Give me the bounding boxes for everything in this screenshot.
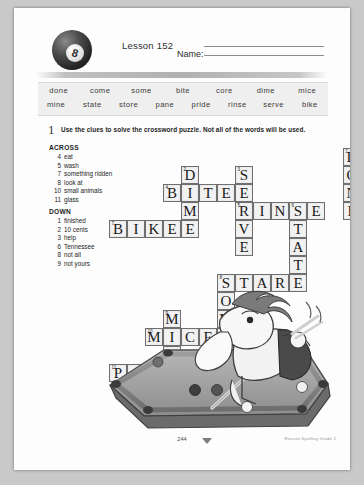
down-clue-list: 1finished210 cents3help6Tennessee8not al… (49, 217, 94, 269)
lesson-title: Lesson 152 (122, 40, 173, 51)
clue-number: 8 (49, 179, 61, 188)
crossword-cell[interactable]: T (289, 256, 307, 274)
crossword-cell-letter: A (290, 239, 306, 255)
crossword-cell-letter: V (236, 221, 252, 237)
clue-text: look at (64, 179, 83, 186)
clue-text: not all (64, 251, 81, 258)
name-line-bottom[interactable] (204, 55, 324, 56)
crossword-cell-letter: N (344, 185, 350, 201)
clue-number: 6 (49, 243, 61, 252)
clue-number: 10 (49, 187, 61, 196)
crossword-cell[interactable]: E (235, 184, 253, 202)
crossword-cell[interactable]: 2D (181, 166, 199, 184)
clue-text: something ridden (64, 170, 112, 177)
instruction-text: Use the clues to solve the crossword puz… (61, 126, 305, 133)
word-bank-word: state (74, 100, 110, 109)
crossword-cell[interactable]: O (343, 166, 350, 184)
crossword-cell[interactable]: E (163, 220, 181, 238)
clue-number: 7 (49, 170, 61, 179)
crossword-cell-letter: B (164, 185, 180, 201)
crossword-cell-letter: O (344, 167, 350, 183)
crossword-cell-letter: B (110, 221, 126, 237)
crossword-cell[interactable]: T (199, 184, 217, 202)
across-clue: 5wash (49, 162, 112, 171)
clue-text: eat (64, 153, 73, 160)
crossword-cell[interactable]: V (235, 220, 253, 238)
clue-number: 3 (49, 234, 61, 243)
header-divider (36, 72, 328, 78)
clue-text: help (64, 234, 76, 241)
crossword-cell[interactable]: N (343, 184, 350, 202)
crossword-cell[interactable]: 5R (235, 202, 253, 220)
clue-number: 1 (49, 217, 61, 226)
crossword-cell-letter: E (308, 203, 324, 219)
crossword-cell-letter: M (182, 203, 198, 219)
crossword-cell[interactable]: E (235, 238, 253, 256)
crossword-cell-letter: I (254, 203, 270, 219)
crossword-cell-letter: S (236, 167, 252, 183)
crossword-cell-letter: K (146, 221, 162, 237)
crossword-cell[interactable]: 1D (343, 148, 350, 166)
word-bank-word: serve (256, 100, 292, 109)
word-bank-word: some (121, 86, 162, 95)
word-bank-word: bike (292, 100, 328, 109)
crossword-cell-letter: E (236, 239, 252, 255)
crossword-cell[interactable]: 4B (163, 184, 181, 202)
footer-credit: Reason Spelling Grade 2 (285, 436, 336, 441)
name-line-top[interactable] (204, 46, 324, 47)
crossword-cell[interactable]: M (181, 202, 199, 220)
cartoon-svg (92, 280, 342, 440)
word-bank-word: done (38, 86, 79, 95)
crossword-cell[interactable]: T (289, 220, 307, 238)
crossword-cell-letter: T (290, 257, 306, 273)
crossword-cell-letter: E (182, 221, 198, 237)
name-label: Name: (177, 49, 204, 59)
crossword-cell[interactable]: A (289, 238, 307, 256)
across-clue: 8look at (49, 179, 112, 188)
instruction-number: 1 (48, 122, 55, 138)
page-inner: 8 Lesson 152 Name: donecomesomebitecored… (14, 8, 350, 470)
word-bank-word: store (111, 100, 147, 109)
crossword-cell[interactable]: N (271, 202, 289, 220)
word-bank-word: pane (147, 100, 183, 109)
crossword-cell[interactable]: E (343, 202, 350, 220)
across-clue-list: 4eat5wash7something ridden8look at10smal… (49, 153, 112, 205)
crossword-cell[interactable]: E (181, 220, 199, 238)
crossword-cell[interactable]: I (127, 220, 145, 238)
clue-text: not yours (64, 260, 90, 267)
pool-table-illustration (92, 280, 342, 440)
down-clue: 8not all (49, 251, 94, 260)
word-bank-word: come (79, 86, 120, 95)
crossword-cell[interactable]: 7B (109, 220, 127, 238)
crossword-cell[interactable]: 6S (289, 202, 307, 220)
down-clue: 1finished (49, 217, 94, 226)
down-clue: 210 cents (49, 226, 94, 235)
clue-text: wash (64, 162, 79, 169)
word-bank-row-2: minestatestorepanepriderinseservebike (38, 100, 328, 109)
clue-number: 8 (49, 251, 61, 260)
crossword-cell[interactable]: E (217, 184, 235, 202)
clue-text: finished (64, 217, 86, 224)
word-bank-word: mice (287, 86, 328, 95)
word-bank-word: dime (245, 86, 286, 95)
crossword-cell[interactable]: K (145, 220, 163, 238)
crossword-cell-letter: S (290, 203, 306, 219)
word-bank: donecomesomebitecoredimemice minestatest… (38, 82, 328, 116)
crossword-cell-letter: I (128, 221, 144, 237)
crossword-cell-letter: D (182, 167, 198, 183)
crossword-cell-letter: R (236, 203, 252, 219)
down-clue: 3help (49, 234, 94, 243)
clue-number: 5 (49, 162, 61, 171)
crossword-cell[interactable]: I (181, 184, 199, 202)
across-heading: ACROSS (49, 144, 79, 151)
crossword-cell-letter: E (344, 203, 350, 219)
word-bank-word: core (204, 86, 245, 95)
crossword-cell-letter: T (200, 185, 216, 201)
across-clue: 11glass (49, 196, 112, 205)
clue-number: 9 (49, 260, 61, 269)
across-clue: 4eat (49, 153, 112, 162)
crossword-cell[interactable]: 3S (235, 166, 253, 184)
crossword-cell[interactable]: E (307, 202, 325, 220)
worksheet-page: 8 Lesson 152 Name: donecomesomebitecored… (14, 8, 350, 470)
crossword-cell[interactable]: I (253, 202, 271, 220)
